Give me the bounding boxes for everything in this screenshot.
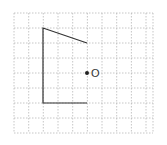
point-o-dot <box>85 71 89 75</box>
polyline-shape <box>43 28 87 103</box>
diagram-canvas: O <box>0 0 167 145</box>
point-o-label: O <box>91 67 100 79</box>
grid <box>14 13 153 133</box>
